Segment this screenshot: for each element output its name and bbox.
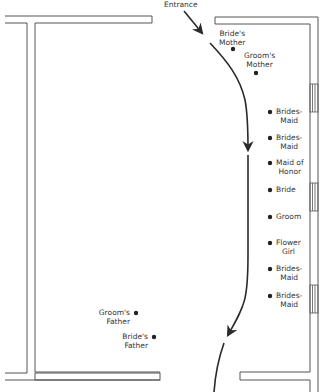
label-line: Father xyxy=(99,317,130,326)
bridesmaid-3-label: Brides-Maid xyxy=(276,264,302,282)
label-line: Bride xyxy=(276,185,296,194)
position-dots xyxy=(134,47,272,339)
label-line: Groom's xyxy=(99,308,130,317)
grooms-mother-dot xyxy=(254,71,258,75)
processional-path-middle xyxy=(228,155,248,335)
bridesmaid-1-label: Brides-Maid xyxy=(276,107,302,125)
label-line: Maid xyxy=(276,300,302,309)
bride-label: Bride xyxy=(276,185,296,194)
grooms-father-label: Groom'sFather xyxy=(99,308,130,326)
flower-girl-label: FlowerGirl xyxy=(276,238,301,256)
maid-of-honor-dot xyxy=(268,161,272,165)
right-wall-windows xyxy=(310,84,318,313)
label-line: Maid of xyxy=(276,158,304,167)
maid-of-honor-label: Maid ofHonor xyxy=(276,158,304,176)
label-line: Brides- xyxy=(276,107,302,116)
floor-plan-diagram xyxy=(0,0,326,392)
label-line: Maid xyxy=(276,142,302,151)
bridesmaid-4-dot xyxy=(268,294,272,298)
label-line: Honor xyxy=(276,167,304,176)
grooms-mother-label: Groom'sMother xyxy=(244,51,275,69)
window-3 xyxy=(310,285,318,313)
label-line: Groom xyxy=(276,212,301,221)
label-line: Brides- xyxy=(276,291,302,300)
bottom-left-wall xyxy=(35,373,160,380)
label-line: Maid xyxy=(276,273,302,282)
groom-label: Groom xyxy=(276,212,301,221)
label-line: Flower xyxy=(276,238,301,247)
label-line: Girl xyxy=(276,247,301,256)
processional-path-upper xyxy=(210,43,248,150)
brides-father-dot xyxy=(152,335,156,339)
top-right-wall xyxy=(215,17,318,392)
label-line: Father xyxy=(122,341,148,350)
grooms-father-dot xyxy=(134,311,138,315)
bride-dot xyxy=(268,188,272,192)
entrance-arrow xyxy=(184,11,202,33)
processional-path-lower xyxy=(214,343,224,392)
window-2 xyxy=(310,183,318,211)
label-line: Brides- xyxy=(276,264,302,273)
bridesmaid-2-dot xyxy=(268,136,272,140)
bridesmaid-4-label: Brides-Maid xyxy=(276,291,302,309)
groom-dot xyxy=(268,215,272,219)
brides-mother-dot xyxy=(231,47,235,51)
bridesmaid-3-dot xyxy=(268,267,272,271)
window-1 xyxy=(310,84,318,112)
label-line: Mother xyxy=(219,38,245,47)
brides-mother-label: Bride'sMother xyxy=(219,29,245,47)
label-line: Groom's xyxy=(244,51,275,60)
bridesmaid-2-label: Brides-Maid xyxy=(276,133,302,151)
label-line: Mother xyxy=(244,60,275,69)
flower-girl-dot xyxy=(268,241,272,245)
entrance-label: Entrance xyxy=(164,0,198,9)
brides-father-label: Bride'sFather xyxy=(122,332,148,350)
label-line: Brides- xyxy=(276,133,302,142)
label-line: Maid xyxy=(276,116,302,125)
bridesmaid-1-dot xyxy=(268,110,272,114)
top-left-wall xyxy=(5,16,160,380)
label-line: Bride's xyxy=(219,29,245,38)
label-line: Bride's xyxy=(122,332,148,341)
